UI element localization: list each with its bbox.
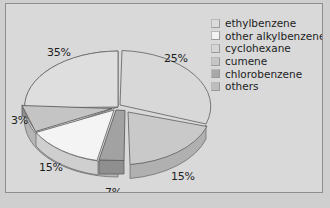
legend-label-cumene: cumene bbox=[225, 55, 267, 67]
legend-swatch-icon-cyclohexane bbox=[211, 44, 220, 53]
pie-label-35: 35% bbox=[47, 46, 71, 59]
pie-chart-figure: 35% 25% 15% 7% 15% 3% ethylbenzene other… bbox=[0, 0, 330, 208]
chart-legend: ethylbenzene other alkylbenzenes cyclohe… bbox=[211, 17, 323, 93]
legend-swatch-icon-chlorobenzene bbox=[211, 69, 220, 78]
legend-item-other-alkylbenzenes: other alkylbenzenes bbox=[211, 30, 323, 43]
legend-item-ethylbenzene: ethylbenzene bbox=[211, 17, 323, 30]
legend-swatch-icon-others bbox=[211, 82, 220, 91]
pie-area: 35% 25% 15% 7% 15% 3% bbox=[6, 4, 226, 193]
legend-label-others: others bbox=[225, 80, 258, 92]
legend-label-cyclohexane: cyclohexane bbox=[225, 42, 291, 54]
legend-swatch-icon-other-alkylbenzenes bbox=[211, 31, 220, 40]
caption-strip bbox=[0, 194, 330, 208]
pie-label-15-right: 15% bbox=[171, 170, 195, 183]
legend-label-chlorobenzene: chlorobenzene bbox=[225, 68, 302, 80]
slice-wall-cumene bbox=[99, 160, 124, 174]
slice-ethylbenzene-top bbox=[25, 51, 118, 108]
pie-label-3: 3% bbox=[11, 114, 28, 127]
pie-label-7: 7% bbox=[105, 186, 122, 193]
legend-swatch-icon-cumene bbox=[211, 57, 220, 66]
pie-label-15-left: 15% bbox=[39, 161, 63, 174]
legend-item-others: others bbox=[211, 80, 323, 93]
legend-label-other-alkylbenzenes: other alkylbenzenes bbox=[225, 30, 323, 42]
legend-swatch-icon-ethylbenzene bbox=[211, 19, 220, 28]
legend-item-chlorobenzene: chlorobenzene bbox=[211, 67, 323, 80]
legend-label-ethylbenzene: ethylbenzene bbox=[225, 17, 296, 29]
legend-item-cumene: cumene bbox=[211, 55, 323, 68]
plot-frame: 35% 25% 15% 7% 15% 3% ethylbenzene other… bbox=[5, 3, 323, 193]
legend-item-cyclohexane: cyclohexane bbox=[211, 42, 323, 55]
pie-label-25: 25% bbox=[164, 52, 188, 65]
